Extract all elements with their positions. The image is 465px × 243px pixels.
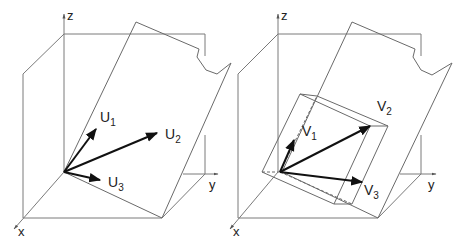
- vector-basis-diagram: z x y U1 U2 U3: [0, 0, 465, 243]
- label-u1: U: [100, 109, 110, 125]
- svg-text:U3: U3: [108, 174, 124, 193]
- vectors-u: [64, 129, 157, 180]
- svg-text:x: x: [18, 224, 25, 239]
- svg-text:V2: V2: [377, 98, 392, 117]
- svg-text:y: y: [209, 177, 216, 192]
- plane: [64, 22, 231, 218]
- vector-v2: [280, 126, 370, 172]
- axis-label-z: z: [281, 8, 288, 23]
- axis-label-y: y: [209, 177, 216, 192]
- axis-label-z: z: [67, 8, 74, 23]
- svg-text:V1: V1: [302, 123, 317, 142]
- right-panel: z x y V1 V2 V3: [230, 8, 452, 239]
- axis-label-x: x: [233, 224, 240, 239]
- vectors-v: [280, 126, 370, 182]
- labels: z x y U1 U2 U3: [18, 8, 216, 239]
- svg-text:z: z: [67, 8, 74, 23]
- svg-text:V3: V3: [364, 182, 379, 201]
- left-panel: z x y U1 U2 U3: [14, 8, 231, 239]
- axis-label-x: x: [18, 224, 25, 239]
- svg-text:U2: U2: [165, 126, 181, 145]
- vector-v1: [280, 140, 294, 172]
- svg-text:x: x: [233, 224, 240, 239]
- axis-label-y: y: [428, 177, 435, 192]
- label-u2: U: [165, 126, 175, 142]
- svg-text:y: y: [428, 177, 435, 192]
- svg-text:z: z: [281, 8, 288, 23]
- svg-text:U1: U1: [100, 109, 116, 128]
- label-u3: U: [108, 174, 118, 190]
- vector-u3: [64, 172, 100, 180]
